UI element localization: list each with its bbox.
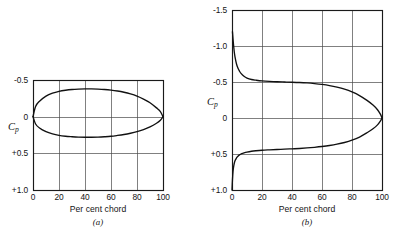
y-tick-label: +0.5 bbox=[12, 148, 29, 158]
y-tick-label: -1.5 bbox=[213, 5, 227, 15]
y-axis-title-a: Cp bbox=[8, 121, 19, 134]
data-curve-lower-surface bbox=[232, 118, 382, 190]
y-axis-title-symbol-b: C bbox=[207, 96, 214, 107]
y-tick-label: +1.0 bbox=[12, 185, 29, 195]
y-tick-label: 0 bbox=[23, 112, 28, 122]
plot-frame bbox=[233, 11, 383, 191]
plot-area-a: 020406080100-0.50+0.5+1.0 bbox=[0, 0, 200, 235]
figure-root: 020406080100-0.50+0.5+1.0 Cp Per cent ch… bbox=[0, 0, 399, 235]
x-axis-title-b: Per cent chord bbox=[279, 204, 336, 214]
y-axis-title-b: Cp bbox=[207, 96, 218, 109]
plot-area-b: 020406080100-1.5-1.0-0.50+0.5+1.0 bbox=[199, 0, 399, 235]
data-curve-upper-surface bbox=[232, 32, 382, 118]
y-tick-label: +1.0 bbox=[211, 185, 228, 195]
y-tick-label: 0 bbox=[222, 113, 227, 123]
x-tick-label: 0 bbox=[230, 192, 235, 202]
panel-b: 020406080100-1.5-1.0-0.50+0.5+1.0 Cp Per… bbox=[199, 0, 399, 235]
x-tick-label: 80 bbox=[132, 192, 142, 202]
data-curve-upper-surface bbox=[33, 89, 163, 117]
plot-frame bbox=[34, 81, 164, 191]
x-tick-label: 100 bbox=[156, 192, 170, 202]
x-tick-label: 60 bbox=[106, 192, 116, 202]
x-tick-label: 20 bbox=[54, 192, 64, 202]
x-tick-label: 20 bbox=[257, 192, 267, 202]
y-axis-title-subscript-b: p bbox=[214, 100, 218, 109]
panel-caption-a: (a) bbox=[93, 217, 103, 227]
x-axis-title-a: Per cent chord bbox=[70, 204, 127, 214]
y-axis-title-subscript-a: p bbox=[15, 124, 19, 133]
panel-caption-b: (b) bbox=[302, 217, 312, 227]
x-tick-label: 60 bbox=[317, 192, 327, 202]
x-tick-label: 40 bbox=[80, 192, 90, 202]
x-tick-label: 80 bbox=[347, 192, 357, 202]
y-axis-title-symbol-a: C bbox=[8, 121, 15, 132]
panel-a: 020406080100-0.50+0.5+1.0 Cp Per cent ch… bbox=[0, 0, 200, 235]
y-tick-label: -0.5 bbox=[213, 77, 227, 87]
data-curve-lower-surface bbox=[33, 117, 163, 138]
y-tick-label: -1.0 bbox=[213, 41, 227, 51]
y-tick-label: -0.5 bbox=[14, 75, 28, 85]
y-tick-label: +0.5 bbox=[211, 149, 228, 159]
x-tick-label: 0 bbox=[31, 192, 36, 202]
x-tick-label: 100 bbox=[375, 192, 389, 202]
x-tick-label: 40 bbox=[287, 192, 297, 202]
